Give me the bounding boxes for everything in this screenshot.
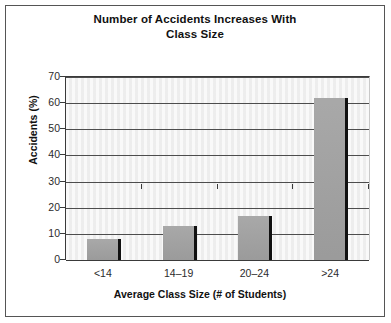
y-tick-mark — [60, 207, 65, 208]
y-tick-mark — [60, 259, 65, 260]
gridline — [66, 260, 369, 261]
x-tick-mark — [368, 184, 369, 189]
y-tick-label: 60 — [30, 96, 60, 108]
y-tick-mark — [60, 76, 65, 77]
y-tick-mark — [60, 154, 65, 155]
x-axis-title: Average Class Size (# of Students) — [30, 288, 370, 300]
y-tick-label: 10 — [30, 227, 60, 239]
x-tick-label: 20–24 — [240, 267, 269, 279]
chart-figure: Number of Accidents Increases With Class… — [0, 0, 391, 323]
x-tick-mark — [217, 184, 218, 189]
y-tick-label: 40 — [30, 148, 60, 160]
y-tick-mark — [60, 128, 65, 129]
x-tick-label: 14–19 — [164, 267, 193, 279]
bar-shading — [314, 98, 345, 260]
y-tick-label: 20 — [30, 201, 60, 213]
x-tick-mark — [141, 184, 142, 189]
y-tick-mark — [60, 102, 65, 103]
y-tick-mark — [60, 181, 65, 182]
bar-shading — [87, 239, 118, 260]
chart-title-line-1: Number of Accidents Increases With — [10, 12, 380, 27]
x-tick-mark — [292, 184, 293, 189]
y-tick-label: 0 — [30, 253, 60, 265]
gridline — [66, 77, 369, 78]
y-axis-tick-labels: 010203040506070 — [28, 76, 60, 259]
bar — [314, 98, 348, 260]
y-tick-label: 70 — [30, 70, 60, 82]
y-tick-label: 50 — [30, 122, 60, 134]
x-tick-label: >24 — [321, 267, 339, 279]
bar-shading — [238, 216, 269, 260]
bar-shading — [163, 226, 194, 260]
bar — [87, 239, 121, 260]
chart-title-line-2: Class Size — [10, 27, 380, 42]
x-tick-label: <14 — [94, 267, 112, 279]
y-tick-label: 30 — [30, 175, 60, 187]
y-tick-mark — [60, 233, 65, 234]
chart-title: Number of Accidents Increases With Class… — [10, 12, 380, 42]
x-axis-tick-labels: <1414–1920–24>24 — [65, 267, 370, 283]
plot-area — [65, 76, 370, 260]
bar — [238, 216, 272, 260]
bar — [163, 226, 197, 260]
